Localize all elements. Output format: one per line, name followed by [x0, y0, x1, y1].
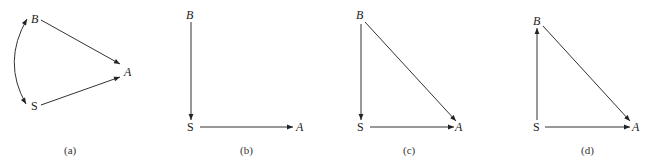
panel-b: B S A (b): [186, 8, 304, 157]
node-s: S: [357, 120, 364, 134]
node-b: B: [186, 8, 194, 22]
edge-s-to-a: [41, 77, 120, 105]
caption-d: (d): [581, 144, 594, 157]
node-a: A: [123, 65, 132, 79]
node-a: A: [631, 120, 640, 134]
caption-b: (b): [240, 144, 253, 157]
node-s: S: [187, 120, 194, 134]
edge-b-s-bidirected: [14, 19, 27, 104]
edge-b-to-a: [41, 20, 120, 64]
node-b: B: [533, 14, 541, 28]
node-s: S: [533, 120, 540, 134]
caption-c: (c): [403, 144, 416, 157]
node-b: B: [356, 8, 364, 22]
node-s: S: [31, 99, 38, 113]
caption-a: (a): [64, 144, 77, 157]
panel-a: B S A (a): [14, 12, 132, 157]
edge-b-to-a: [543, 26, 630, 121]
node-a: A: [454, 120, 463, 134]
node-a: A: [295, 120, 304, 134]
node-b: B: [31, 12, 39, 26]
panel-d: B S A (d): [533, 14, 640, 157]
causal-diagram-figure: B S A (a) B S A (b) B S A (c) B S A (d): [0, 0, 647, 163]
edge-b-to-a: [365, 22, 456, 121]
panel-c: B S A (c): [356, 8, 463, 157]
